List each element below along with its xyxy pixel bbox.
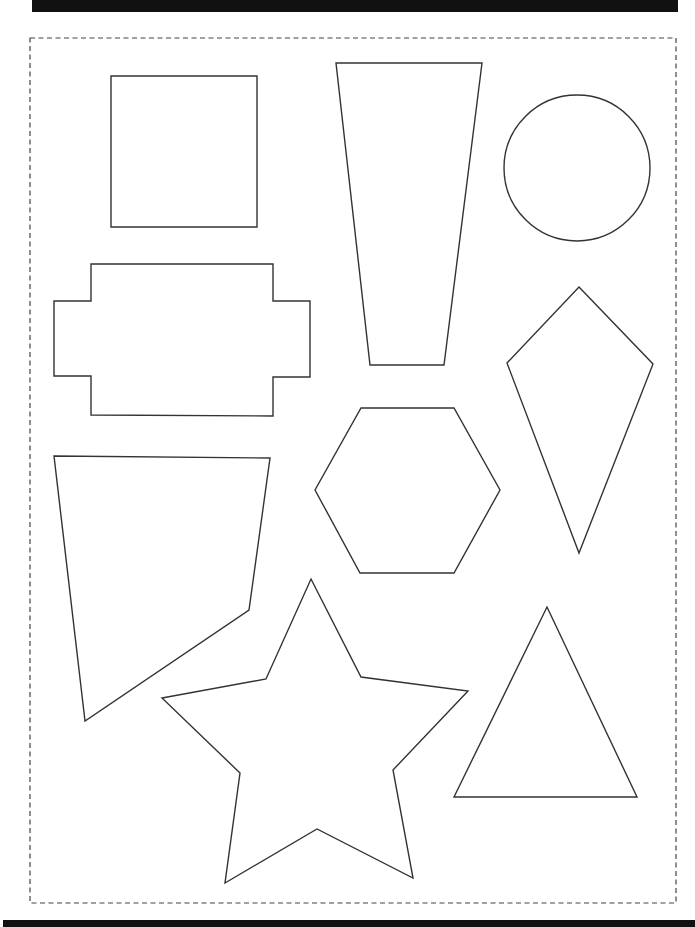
hexagon-shape bbox=[315, 408, 500, 573]
square-shape bbox=[111, 76, 257, 227]
trapezoid-shape bbox=[336, 63, 482, 365]
kite-shape bbox=[507, 287, 653, 553]
triangle-shape bbox=[454, 607, 637, 797]
cross-rectangle-shape bbox=[54, 264, 310, 416]
irregular-quadrilateral-shape bbox=[54, 456, 270, 721]
shapes-canvas bbox=[0, 0, 695, 927]
circle-shape bbox=[504, 95, 650, 241]
bottom-black-bar bbox=[3, 920, 695, 927]
